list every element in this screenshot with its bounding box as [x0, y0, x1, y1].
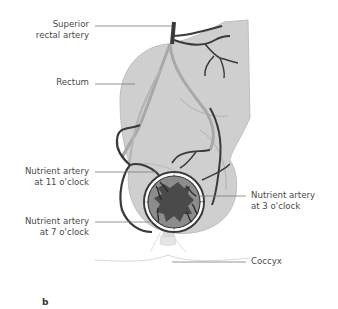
- label-coccyx: Coccyx: [251, 256, 282, 267]
- label-nutrient-artery-3-oclock: Nutrient artery at 3 o'clock: [251, 190, 315, 212]
- rectal-blood-supply-diagram: Superior rectal artery Rectum Nutrient a…: [0, 0, 338, 309]
- skin-contour: [95, 255, 250, 261]
- anatomy-illustration: [0, 0, 338, 309]
- anal-canal-cross-section: [144, 172, 204, 232]
- panel-letter: b: [42, 297, 48, 307]
- superior-rectal-artery-trunk: [172, 22, 174, 44]
- label-nutrient-artery-7-oclock: Nutrient artery at 7 o'clock: [25, 216, 89, 238]
- label-rectum: Rectum: [56, 77, 89, 88]
- label-nutrient-artery-11-oclock: Nutrient artery at 11 o'clock: [25, 166, 89, 188]
- label-superior-rectal-artery: Superior rectal artery: [36, 19, 89, 41]
